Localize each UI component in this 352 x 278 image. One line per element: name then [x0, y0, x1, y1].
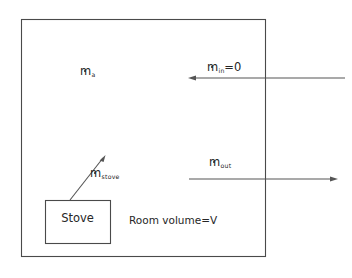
m-air-subscript: a: [92, 71, 96, 78]
label-m-stove: mstove: [90, 168, 119, 180]
label-room-volume: Room volume=V: [129, 215, 217, 226]
label-m-out: mout: [209, 157, 231, 169]
m-stove-subscript: stove: [102, 173, 120, 180]
m-out-dot-icon: [213, 161, 215, 163]
outlet-arrow-head-icon: [330, 177, 338, 182]
m-stove-dot-icon: [94, 172, 96, 174]
m-in-equals: =0: [224, 60, 241, 74]
diagram-canvas: [0, 0, 352, 278]
label-m-air: ma: [80, 66, 95, 78]
m-air-dot-icon: [84, 70, 86, 72]
inlet-arrow-head-icon: [188, 76, 196, 81]
label-m-in: min=0: [207, 62, 242, 74]
m-out-subscript: out: [221, 162, 232, 169]
label-stove: Stove: [45, 213, 110, 225]
thermodynamics-room-diagram: ma min=0 mout mstove Stove Room volume=V: [0, 0, 352, 278]
m-in-subscript: in: [219, 67, 225, 74]
m-in-dot-icon: [211, 66, 213, 68]
